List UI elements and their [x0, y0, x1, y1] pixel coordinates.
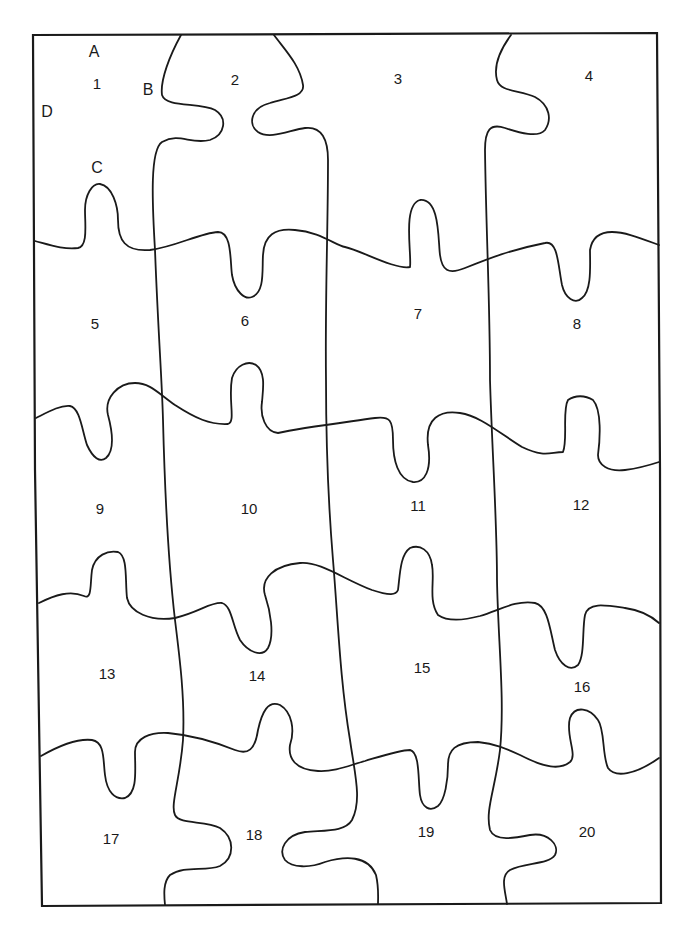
side-label-c: C	[91, 160, 103, 176]
piece-label-19: 19	[418, 824, 435, 839]
piece-label-7: 7	[414, 306, 422, 321]
puzzle-frame	[33, 33, 661, 906]
vertical-cut-2	[252, 35, 378, 904]
piece-label-14: 14	[249, 668, 266, 683]
puzzle-diagram	[0, 0, 695, 932]
piece-label-1: 1	[93, 76, 101, 91]
piece-label-12: 12	[573, 497, 590, 512]
piece-label-8: 8	[573, 316, 581, 331]
horizontal-cut-4	[41, 704, 659, 809]
piece-label-10: 10	[241, 501, 258, 516]
side-label-a: A	[89, 44, 100, 60]
piece-label-5: 5	[91, 316, 99, 331]
piece-label-3: 3	[394, 71, 402, 86]
piece-label-9: 9	[96, 501, 104, 516]
side-label-b: B	[143, 82, 154, 98]
piece-label-20: 20	[579, 824, 596, 839]
piece-label-6: 6	[241, 313, 249, 328]
vertical-cut-1	[153, 35, 232, 905]
piece-label-18: 18	[246, 827, 263, 842]
piece-label-4: 4	[585, 68, 593, 83]
piece-label-15: 15	[414, 660, 431, 675]
piece-label-17: 17	[103, 831, 120, 846]
horizontal-cut-3	[39, 547, 659, 668]
piece-label-11: 11	[410, 498, 426, 513]
piece-label-16: 16	[574, 679, 591, 694]
side-label-d: D	[41, 104, 53, 120]
vertical-cut-3	[485, 35, 556, 904]
piece-label-13: 13	[99, 666, 116, 681]
horizontal-cut-2	[36, 363, 659, 482]
piece-label-2: 2	[231, 72, 239, 87]
horizontal-cut-1	[35, 184, 659, 301]
